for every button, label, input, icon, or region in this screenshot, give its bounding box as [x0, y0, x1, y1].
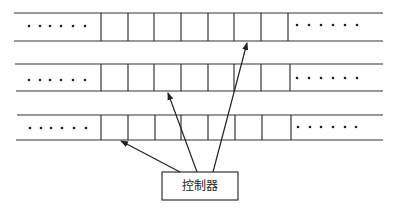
ellipsis-dots	[29, 126, 358, 130]
buffer-row-2	[15, 64, 383, 91]
arrow-to-row-2	[168, 93, 197, 172]
buffer-row-1	[14, 13, 383, 41]
buffer-row-3	[16, 115, 383, 140]
controller-label: 控制器	[162, 172, 238, 200]
ellipsis-dots	[28, 24, 359, 28]
arrow-to-row-1	[213, 43, 247, 172]
pointer-arrows	[121, 43, 247, 172]
ellipsis-dots	[28, 77, 359, 82]
arrow-to-row-3	[121, 141, 180, 172]
